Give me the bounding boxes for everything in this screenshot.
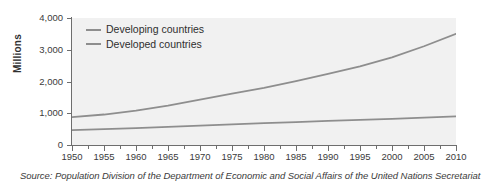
y-tick-label: 2,000 (39, 77, 63, 87)
line-developed-countries (72, 116, 456, 130)
x-tick-mark-minor (216, 146, 217, 149)
x-tick-mark-minor (184, 146, 185, 149)
x-tick-mark-minor (440, 146, 441, 149)
chart-figure: Millions 01,0002,0003,0004,000 195019551… (0, 0, 490, 188)
legend-line-swatch-icon (86, 43, 101, 45)
x-tick-mark-minor (88, 146, 89, 149)
y-tick-mark (67, 82, 71, 83)
x-tick-mark-minor (280, 146, 281, 149)
y-tick-mark (67, 113, 71, 114)
legend-line-swatch-icon (86, 29, 101, 31)
x-tick-mark-minor (408, 146, 409, 149)
y-tick-mark (67, 18, 71, 19)
legend-label-developing: Developing countries (106, 24, 204, 36)
y-tick-label: 3,000 (39, 45, 63, 55)
x-tick-mark-minor (248, 146, 249, 149)
x-tick-mark-minor (376, 146, 377, 149)
y-tick-label: 0 (58, 140, 63, 150)
x-tick-label: 2010 (436, 152, 476, 162)
y-tick-mark (67, 50, 71, 51)
chart-legend: Developing countries Developed countries (86, 24, 204, 50)
legend-item-developed: Developed countries (86, 39, 204, 51)
legend-label-developed: Developed countries (106, 39, 202, 51)
y-tick-label: 4,000 (39, 13, 63, 23)
x-tick-mark-minor (344, 146, 345, 149)
x-tick-mark-minor (120, 146, 121, 149)
x-tick-mark-minor (312, 146, 313, 149)
source-note: Source: Population Division of the Depar… (20, 170, 480, 181)
legend-item-developing: Developing countries (86, 24, 204, 36)
y-axis-line (71, 17, 72, 146)
y-axis-title: Millions (12, 19, 23, 89)
y-tick-mark (67, 145, 71, 146)
x-tick-mark-minor (152, 146, 153, 149)
y-tick-label: 1,000 (39, 108, 63, 118)
